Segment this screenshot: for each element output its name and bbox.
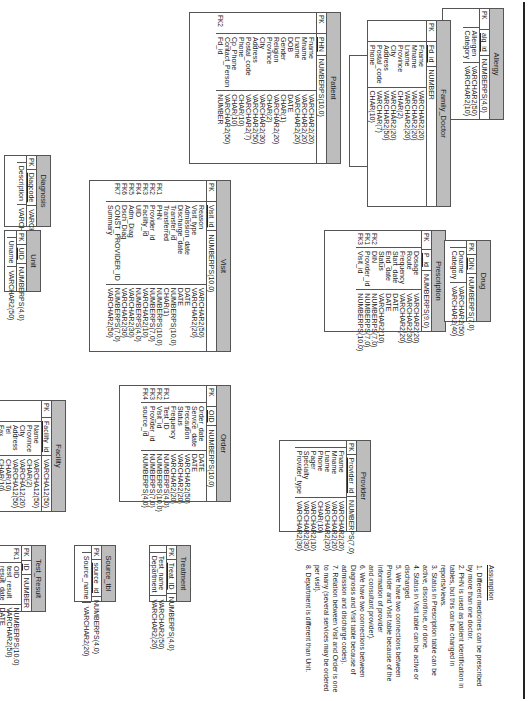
attribute-type: VARCHAR2(50)	[383, 91, 390, 141]
attribute-name: Fname	[418, 45, 425, 84]
attribute-name: OID	[13, 566, 20, 601]
assumption-item: and consultant provider).	[367, 565, 376, 695]
attribute-name: Lname	[294, 37, 301, 87]
key-marker	[406, 233, 413, 245]
attribute-name: Name	[33, 425, 40, 452]
attribute-type: CHAR(10)	[0, 459, 5, 508]
entity-title: Patient	[326, 13, 340, 163]
attribute-name: Phone	[369, 45, 376, 84]
primary-key-section: PKIDNUMBER	[21, 546, 31, 611]
attribute-type: VARCHAR2(20)	[308, 94, 315, 144]
key-marker	[151, 548, 158, 550]
attribute-type: VARCHAR2(20)	[151, 599, 158, 649]
attribute-type: VARCHAR2(50)	[224, 94, 231, 144]
attribute-type: CHAR(10)	[238, 94, 245, 144]
entity-title: Drug	[476, 241, 490, 321]
key-marker: PK	[168, 548, 175, 557]
entity-title: Unit	[26, 231, 40, 291]
attribute-name: Uname	[8, 241, 15, 264]
attribute-name: Service_date	[191, 406, 198, 447]
attribute-name: Phone	[238, 37, 245, 87]
key-marker: PK	[468, 243, 475, 252]
attribute-type: NUMBERPS(10,0)	[208, 234, 215, 292]
attribute-type: NUMBERPS(7,0)	[149, 454, 156, 512]
attribute-type: NUMBERPS(10,0)	[318, 59, 325, 117]
attribute-type: VARCHA12(50)	[33, 459, 40, 508]
attribute-name: Frequency	[170, 406, 177, 447]
key-marker	[280, 15, 287, 31]
entity-title: Treatment	[176, 546, 190, 601]
attribute-name: Facility_id	[43, 421, 50, 452]
attribute-type: VARCHAR2(50)	[471, 66, 478, 116]
attribute-name: Facility_id	[142, 205, 149, 281]
attribute-type: DATE	[392, 293, 399, 351]
key-marker	[404, 23, 411, 39]
attribute-section: DescriptionVARCHAR2(80)	[17, 156, 26, 226]
primary-key-section: PKTreat_IDNUMBERPS(4,0)	[166, 546, 176, 601]
attribute-type: DATE	[198, 454, 205, 512]
key-marker	[471, 11, 478, 25]
attribute-type: NUMBERPS(10,0)	[156, 454, 163, 512]
key-marker	[83, 548, 90, 550]
attribute-name: Address	[12, 425, 19, 452]
attribute-name: Address	[252, 37, 259, 87]
attribute-name: Provider_type	[296, 451, 303, 494]
attribute-name: Province	[397, 45, 404, 84]
key-marker	[266, 15, 273, 31]
attribute-name: Allergen	[471, 31, 478, 59]
key-marker	[385, 233, 392, 245]
attribute-name: Visit_type	[191, 205, 198, 281]
key-marker	[383, 23, 390, 39]
key-marker: PK	[423, 233, 430, 247]
attribute-type: CHAR(10)	[231, 94, 238, 144]
entity-title: Facility	[51, 401, 65, 511]
attribute-type: NUMBERPS(7,0)	[149, 288, 156, 346]
attribute-type: VARCHAR2(20)	[191, 288, 198, 346]
key-marker	[8, 233, 15, 235]
key-marker: PK	[208, 388, 215, 404]
key-marker	[301, 15, 308, 31]
attribute-name: ID	[23, 564, 30, 571]
attribute-name: Discharge_date	[177, 205, 184, 281]
attribute-type: CHAR(1)	[280, 94, 287, 144]
key-marker: PK	[481, 11, 488, 27]
key-marker	[308, 15, 315, 31]
attribute-type: VARCHAR2(10)	[464, 66, 471, 116]
attribute-type: VARCHAR2(30)	[296, 501, 303, 551]
entity-family-doctor: Family_DoctorPKFd_idNUMBER FnameMnameLna…	[367, 20, 451, 207]
entity-treatment: TreatmentPKTreat_IDNUMBERPS(4,0) Test_na…	[149, 545, 191, 602]
attribute-type: VARCHAR2(40)	[451, 286, 458, 336]
assumption-item: 1. Different medicines can be prescribed…	[466, 565, 484, 695]
attribute-name: Status	[177, 406, 184, 447]
attribute-type: VARCHAR2(20)	[170, 454, 177, 512]
key-marker: PK	[428, 23, 435, 39]
primary-key-section: PKFacility_idVARCHA12(50)	[41, 401, 51, 511]
key-marker	[338, 443, 345, 445]
attribute-type: VARCHAR2(50)	[107, 288, 114, 346]
attribute-name: Fax	[0, 425, 5, 452]
key-marker: FK1	[163, 388, 170, 400]
attribute-type: VARCHAR2(20)	[331, 501, 338, 551]
attribute-name: UID	[18, 248, 25, 260]
attribute-name: Provider_id	[149, 406, 156, 447]
key-marker	[191, 388, 198, 400]
assumption-item: 6. We have two connections between Diagn…	[340, 565, 367, 695]
diagram-page: AllergyPKalg_idNUMBERPS(4,0) AllergenCat…	[0, 0, 529, 701]
primary-key-section: PKDINNUMBERPS(7,0)	[466, 241, 476, 321]
key-marker	[107, 183, 114, 199]
entity-title: Family_Doctor	[436, 21, 450, 206]
attribute-name: DIN	[371, 251, 378, 286]
key-marker	[170, 183, 177, 199]
key-marker	[411, 23, 418, 39]
entity-title: Order	[216, 386, 230, 501]
attribute-type: CHAR(2)	[266, 94, 273, 144]
key-marker: FK3	[149, 388, 156, 400]
entity-prescription: PrescriptionPKP_idNUMBERPS(9,0) FK2FK1FK…	[324, 230, 446, 332]
attribute-type: VARCHAR2(20)	[324, 501, 331, 551]
attribute-name: Category	[451, 251, 458, 279]
attribute-type: VARCHAR2(50)	[198, 288, 205, 346]
key-marker: FK1	[156, 183, 163, 199]
attribute-name: Gender	[280, 37, 287, 87]
assumption-item: 8. Department is different than Unit.	[304, 565, 313, 695]
entity-title: Diagnosis	[36, 156, 50, 226]
